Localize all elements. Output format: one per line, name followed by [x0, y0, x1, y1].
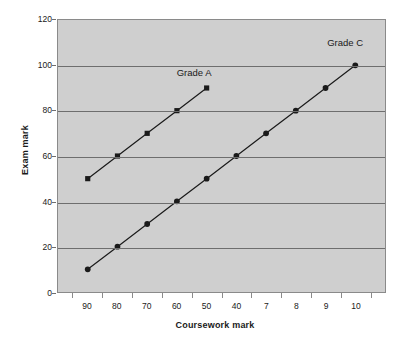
chart-figure: Exam mark 020406080100120 Grade AGrade C…	[0, 0, 413, 342]
y-tick-label: 0	[26, 288, 52, 298]
y-tick-label: 100	[26, 60, 52, 70]
series-grade-a	[85, 85, 209, 181]
y-tick-label: 40	[26, 197, 52, 207]
series-layer	[58, 20, 385, 292]
gridline	[58, 248, 385, 249]
y-tick-label: 20	[26, 242, 52, 252]
series-annotation: Grade C	[327, 37, 363, 48]
gridline	[58, 157, 385, 158]
data-point-square	[204, 85, 209, 90]
y-tick-mark	[52, 65, 56, 66]
x-tick-mark	[222, 293, 223, 298]
data-point-circle	[323, 85, 329, 91]
y-tick-mark	[52, 202, 56, 203]
gridline	[58, 203, 385, 204]
series-grade-c	[85, 62, 358, 272]
data-point-circle	[85, 266, 91, 272]
data-point-square	[145, 131, 150, 136]
y-tick-mark	[52, 156, 56, 157]
series-line	[88, 65, 356, 269]
x-axis-title: Coursework mark	[44, 320, 386, 330]
y-tick-label: 80	[26, 105, 52, 115]
y-tick-label: 60	[26, 151, 52, 161]
y-tick-label: 120	[26, 14, 52, 24]
data-point-circle	[233, 153, 239, 159]
x-tick-mark	[311, 293, 312, 298]
x-tick-mark	[72, 293, 73, 298]
x-tick-mark	[251, 293, 252, 298]
data-point-circle	[263, 130, 269, 136]
y-axis-ticks: 020406080100120	[20, 19, 52, 293]
x-tick-mark	[341, 293, 342, 298]
x-tick-mark	[192, 293, 193, 298]
x-tick-mark	[102, 293, 103, 298]
data-point-circle	[144, 221, 150, 227]
data-point-square	[85, 176, 90, 181]
x-axis-ticks: 90807060504078910	[57, 293, 386, 315]
y-tick-mark	[52, 247, 56, 248]
y-tick-mark	[52, 110, 56, 111]
x-tick-mark	[162, 293, 163, 298]
y-tick-mark	[52, 293, 56, 294]
data-point-circle	[204, 176, 210, 182]
gridline	[58, 111, 385, 112]
x-tick-mark	[132, 293, 133, 298]
plot-area: Grade AGrade C	[57, 19, 386, 293]
series-annotation: Grade A	[177, 67, 212, 78]
y-tick-mark	[52, 19, 56, 20]
x-tick-mark	[371, 293, 372, 298]
gridline	[58, 66, 385, 67]
x-tick-mark	[281, 293, 282, 298]
x-tick-label: 10	[336, 301, 376, 311]
